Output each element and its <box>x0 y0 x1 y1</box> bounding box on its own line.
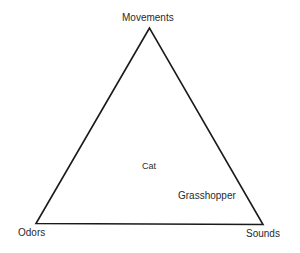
vertex-label-odors: Odors <box>18 228 45 238</box>
triangle-shape <box>0 0 300 253</box>
point-label-grasshopper: Grasshopper <box>178 191 236 201</box>
point-label-cat: Cat <box>142 162 156 171</box>
vertex-label-movements: Movements <box>122 13 174 23</box>
vertex-label-sounds: Sounds <box>246 229 280 239</box>
triangle-diagram: Movements Odors Sounds Cat Grasshopper <box>0 0 300 253</box>
